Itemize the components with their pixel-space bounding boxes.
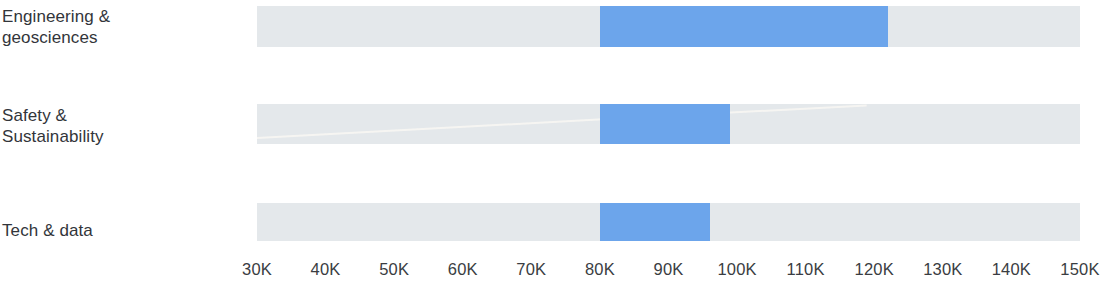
range-fill-tech-data <box>600 203 710 241</box>
x-axis-tick-label: 120K <box>855 258 894 280</box>
x-axis: 30K40K50K60K70K80K90K100K110K120K130K140… <box>0 258 1095 284</box>
row-label-engineering-geosciences: Engineering & geosciences <box>2 6 242 48</box>
range-fill-safety-sustainability <box>600 104 730 144</box>
x-axis-tick-label: 140K <box>992 258 1031 280</box>
x-axis-tick-label: 90K <box>654 258 684 280</box>
chart-row: Engineering & geosciences <box>0 0 1095 95</box>
x-axis-tick-label: 110K <box>787 258 825 280</box>
x-axis-tick-label: 130K <box>923 258 962 280</box>
x-axis-tick-label: 100K <box>717 258 756 280</box>
x-axis-tick-label: 150K <box>1060 258 1099 280</box>
diagonal-artifact-line <box>257 115 657 139</box>
x-axis-tick-label: 30K <box>242 258 272 280</box>
x-axis-tick-label: 80K <box>585 258 615 280</box>
chart-row: Safety & Sustainability <box>0 95 1095 194</box>
chart-row: Tech & data <box>0 194 1095 258</box>
range-track <box>257 203 1080 241</box>
row-label-safety-sustainability: Safety & Sustainability <box>2 105 242 147</box>
x-axis-tick-label: 60K <box>448 258 478 280</box>
range-fill-engineering-geosciences <box>600 6 888 47</box>
range-track <box>257 104 1080 144</box>
x-axis-tick-label: 40K <box>311 258 341 280</box>
x-axis-tick-label: 70K <box>516 258 546 280</box>
x-axis-tick-label: 50K <box>379 258 409 280</box>
row-label-tech-data: Tech & data <box>2 220 242 241</box>
range-track <box>257 6 1080 47</box>
